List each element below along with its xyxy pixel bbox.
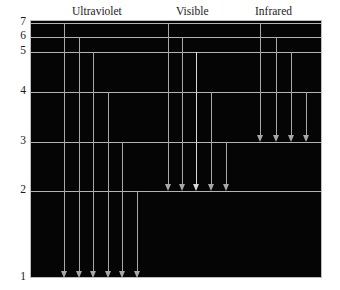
arrow-head-icon <box>179 184 185 191</box>
arrow-head-icon <box>105 271 111 278</box>
level-label-n4: 4 <box>2 85 26 97</box>
energy-level-line-n5 <box>31 52 321 53</box>
plot-area <box>30 20 322 278</box>
arrow-shaft <box>168 23 169 185</box>
arrow-head-icon <box>76 271 82 278</box>
energy-level-line-n7 <box>31 23 321 24</box>
energy-level-line-n2 <box>31 191 321 192</box>
energy-level-line-n6 <box>31 37 321 38</box>
arrow-head-icon <box>193 184 199 191</box>
energy-level-line-n3 <box>31 142 321 143</box>
arrow-head-icon <box>273 135 279 142</box>
level-label-n6: 6 <box>2 30 26 42</box>
arrow-shaft <box>64 23 65 272</box>
arrow-shaft <box>211 92 212 185</box>
arrow-shaft <box>260 23 261 136</box>
arrow-head-icon <box>303 135 309 142</box>
arrow-head-icon <box>119 271 125 278</box>
series-label-ultraviolet: Ultraviolet <box>72 5 122 18</box>
arrow-shaft <box>137 191 138 272</box>
arrow-head-icon <box>257 135 263 142</box>
arrow-shaft <box>226 142 227 185</box>
arrow-head-icon <box>61 271 67 278</box>
arrow-shaft <box>93 52 94 272</box>
level-label-n1: 1 <box>2 271 26 283</box>
arrow-shaft <box>122 142 123 272</box>
level-label-gutter: 7654321 <box>0 0 26 290</box>
arrow-shaft <box>276 37 277 136</box>
series-label-visible: Visible <box>176 5 209 18</box>
arrow-head-icon <box>134 271 140 278</box>
level-label-n3: 3 <box>2 135 26 147</box>
level-label-n2: 2 <box>2 184 26 196</box>
series-label-infrared: Infrared <box>255 5 292 18</box>
arrow-shaft <box>196 52 197 185</box>
level-label-n7: 7 <box>2 16 26 28</box>
level-label-n5: 5 <box>2 45 26 57</box>
arrow-shaft <box>182 37 183 185</box>
arrow-head-icon <box>223 184 229 191</box>
energy-level-line-n4 <box>31 92 321 93</box>
arrow-head-icon <box>165 184 171 191</box>
arrow-shaft <box>291 52 292 136</box>
energy-level-diagram: UltravioletVisibleInfrared 7654321 <box>0 0 340 290</box>
arrow-shaft <box>79 37 80 272</box>
arrow-head-icon <box>208 184 214 191</box>
arrow-head-icon <box>288 135 294 142</box>
arrow-head-icon <box>90 271 96 278</box>
arrow-shaft <box>108 92 109 272</box>
arrow-shaft <box>306 92 307 136</box>
